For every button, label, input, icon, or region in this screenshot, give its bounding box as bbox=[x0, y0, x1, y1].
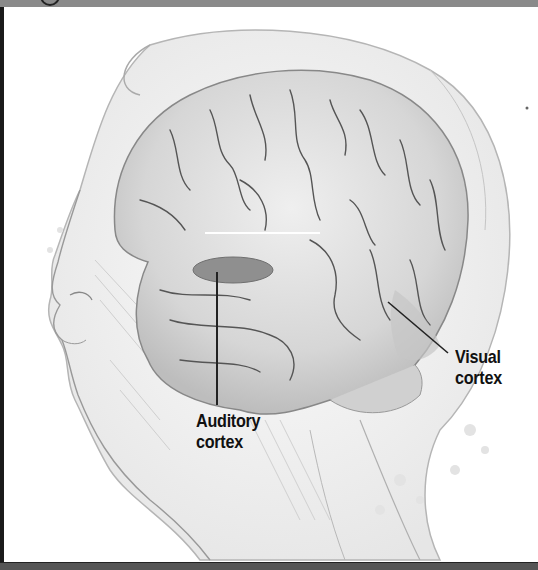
label-visual-line2: cortex bbox=[455, 367, 502, 388]
label-visual-line1: Visual bbox=[455, 346, 502, 367]
diagram-frame: Auditory cortex Visual cortex bbox=[0, 0, 538, 570]
label-visual-cortex: Visual cortex bbox=[455, 346, 502, 388]
dot-mark bbox=[526, 107, 529, 110]
auditory-cortex-region bbox=[193, 257, 273, 283]
brain bbox=[114, 70, 468, 414]
label-auditory-cortex: Auditory cortex bbox=[196, 410, 260, 452]
brain-illustration bbox=[0, 0, 538, 570]
label-auditory-line1: Auditory bbox=[196, 410, 260, 431]
label-auditory-line2: cortex bbox=[196, 431, 260, 452]
bottom-border-bar bbox=[0, 562, 538, 570]
